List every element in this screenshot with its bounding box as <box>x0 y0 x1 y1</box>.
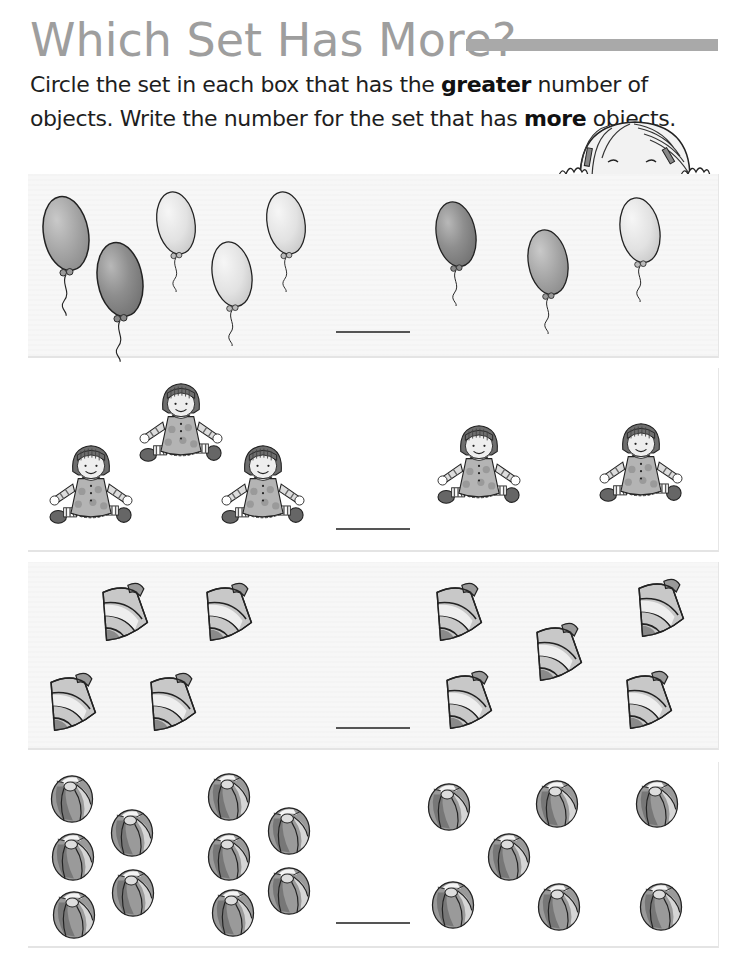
answer-blank[interactable] <box>336 727 410 729</box>
instructions-text-1: Circle the set in each box that has the <box>30 72 441 97</box>
beach-ball-icon <box>50 832 96 882</box>
seashell-icon <box>632 576 694 638</box>
beach-ball-icon <box>206 832 252 882</box>
balloon-icon <box>204 240 260 346</box>
beach-ball-icon <box>109 808 155 858</box>
beach-ball-icon <box>634 779 680 829</box>
balloon-icon <box>148 190 204 292</box>
answer-blank[interactable] <box>336 528 410 530</box>
beach-ball-icon <box>534 779 580 829</box>
balloon-icon <box>258 190 314 292</box>
beach-ball-icon <box>486 832 532 882</box>
problem-box-shells <box>28 562 719 750</box>
rag-doll-icon <box>430 424 528 506</box>
balloon-icon <box>520 228 576 334</box>
beach-ball-icon <box>210 888 256 938</box>
seashell-icon <box>200 580 262 642</box>
beach-ball-icon <box>266 806 312 856</box>
seashell-icon <box>620 668 682 730</box>
balloon-icon <box>92 240 148 362</box>
beach-ball-icon <box>266 866 312 916</box>
seashell-icon <box>44 670 106 732</box>
beach-ball-icon <box>536 882 582 932</box>
beach-ball-icon <box>110 868 156 918</box>
beach-ball-icon <box>638 882 684 932</box>
seashell-icon <box>144 670 206 732</box>
beach-ball-icon <box>51 890 97 940</box>
problem-box-beach-balls <box>28 762 719 948</box>
balloon-icon <box>38 194 94 316</box>
balloon-icon <box>428 200 484 306</box>
beach-ball-icon <box>426 782 472 832</box>
beach-ball-icon <box>430 880 476 930</box>
instructions-bold-greater: greater <box>441 72 531 97</box>
beach-ball-icon <box>206 772 252 822</box>
answer-blank[interactable] <box>336 331 410 333</box>
title-decorative-bar <box>466 39 718 51</box>
rag-doll-icon <box>42 444 140 526</box>
answer-blank[interactable] <box>336 922 410 924</box>
seashell-icon <box>440 668 502 730</box>
seashell-icon <box>530 620 592 682</box>
problem-box-dolls <box>28 368 719 552</box>
balloon-icon <box>612 196 668 302</box>
beach-ball-icon <box>49 774 95 824</box>
seashell-icon <box>430 580 492 642</box>
rag-doll-icon <box>592 422 690 504</box>
rag-doll-icon <box>214 444 312 526</box>
page-title: Which Set Has More? <box>30 10 516 70</box>
problem-box-balloons <box>28 174 719 358</box>
seashell-icon <box>96 580 158 642</box>
